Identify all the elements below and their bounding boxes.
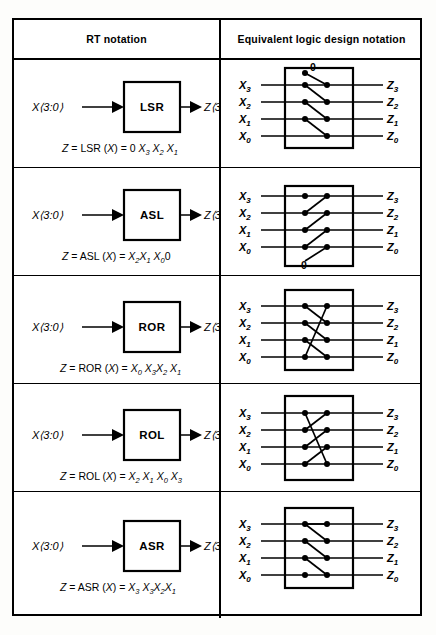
- fill-zero-label: 0: [301, 259, 307, 271]
- svg-text:Z1: Z1: [386, 224, 399, 239]
- table-header: RT notation Equivalent logic design nota…: [14, 20, 420, 60]
- header-column-divider: [219, 20, 221, 58]
- operation-label: ASR: [139, 540, 165, 552]
- svg-text:X2: X2: [238, 96, 251, 111]
- svg-text:X0: X0: [238, 130, 251, 145]
- operation-label: ROR: [139, 321, 166, 333]
- logic-box: [285, 186, 353, 266]
- output-arrow-icon: [190, 209, 202, 221]
- input-arrow-icon: [112, 209, 124, 221]
- svg-text:Z0: Z0: [386, 130, 399, 145]
- input-bus-label: X⟨3:0⟩: [31, 321, 64, 333]
- output-labels: Z3 Z2 Z1 Z0: [386, 300, 399, 366]
- svg-text:X3: X3: [238, 407, 251, 422]
- svg-text:Z3: Z3: [386, 190, 399, 205]
- svg-text:X0: X0: [238, 458, 251, 473]
- output-labels: Z3 Z2 Z1 Z0: [386, 79, 399, 145]
- rt-notation-asr: X⟨3:0⟩ ASR Z⟨3:0⟩ Z = ASR (X) = X3 X3X2X…: [14, 492, 219, 604]
- table-row: X⟨3:0⟩ ASL Z⟨3:0⟩ Z = ASL (X) = X2X1 X00: [14, 168, 420, 276]
- input-labels: X3 X2 X1 X0: [238, 300, 251, 366]
- svg-text:Z2: Z2: [386, 424, 399, 439]
- input-bus-label: X⟨3:0⟩: [31, 209, 64, 221]
- table-row: X⟨3:0⟩ LSR Z⟨3:0⟩ Z = LSR (X) = 0 X3 X2 …: [14, 60, 420, 168]
- rt-notation-asl: X⟨3:0⟩ ASL Z⟨3:0⟩ Z = ASL (X) = X2X1 X00: [14, 168, 219, 275]
- svg-text:X3: X3: [238, 190, 251, 205]
- svg-text:Z3: Z3: [386, 300, 399, 315]
- svg-text:Z3: Z3: [386, 407, 399, 422]
- svg-text:Z0: Z0: [386, 569, 399, 584]
- logic-diagram-ror: X3 X2 X1 X0 Z3 Z2 Z1 Z0: [221, 276, 422, 383]
- input-arrow-icon: [112, 540, 124, 552]
- svg-text:Z1: Z1: [386, 441, 399, 456]
- equation: Z = ASR (X) = X3 X3X2X1: [59, 581, 176, 596]
- equation: Z = ASL (X) = X2X1 X00: [61, 250, 171, 265]
- svg-text:X1: X1: [238, 552, 251, 567]
- header-logic-notation: Equivalent logic design notation: [221, 20, 422, 58]
- output-bus-label: Z⟨3:0⟩: [203, 321, 219, 333]
- logic-diagram-lsr: X3 X2 X1 X0 Z3 Z2 Z1 Z0: [221, 60, 422, 167]
- svg-text:Z1: Z1: [386, 113, 399, 128]
- output-arrow-icon: [190, 101, 202, 113]
- svg-text:Z0: Z0: [386, 458, 399, 473]
- input-bus-label: X⟨3:0⟩: [31, 101, 64, 113]
- rt-notation-rol: X⟨3:0⟩ ROL Z⟨3:0⟩ Z = ROL (X) = X2 X1 X0…: [14, 384, 219, 491]
- figure-sheet: RT notation Equivalent logic design nota…: [0, 0, 436, 635]
- output-bus-label: Z⟨3:0⟩: [203, 101, 219, 113]
- logic-diagram-rol: X3 X2 X1 X0 Z3 Z2 Z1 Z0: [221, 384, 422, 491]
- input-bus-label: X⟨3:0⟩: [31, 429, 64, 441]
- svg-text:X1: X1: [238, 224, 251, 239]
- table-row: X⟨3:0⟩ ROR Z⟨3:0⟩ Z = ROR (X) = X0 X3X2 …: [14, 276, 420, 384]
- header-rt-notation: RT notation: [14, 20, 219, 58]
- logic-diagram-asl: X3 X2 X1 X0 Z3 Z2 Z1 Z0: [221, 168, 422, 275]
- input-labels: X3 X2 X1 X0: [238, 79, 251, 145]
- output-arrow-icon: [190, 540, 202, 552]
- svg-text:X3: X3: [238, 518, 251, 533]
- svg-text:Z1: Z1: [386, 552, 399, 567]
- operation-label: ASL: [140, 209, 164, 221]
- table-row: X⟨3:0⟩ ASR Z⟨3:0⟩ Z = ASR (X) = X3 X3X2X…: [14, 492, 420, 604]
- svg-text:X3: X3: [238, 300, 251, 315]
- equation: Z = LSR (X) = 0 X3 X2 X1: [61, 142, 178, 157]
- equation: Z = ROL (X) = X2 X1 X0 X3: [59, 470, 183, 485]
- logic-diagram-asr: X3 X2 X1 X0 Z3 Z2 Z1 Z0: [221, 492, 422, 604]
- svg-text:Z1: Z1: [386, 334, 399, 349]
- svg-text:Z0: Z0: [386, 241, 399, 256]
- input-bus-label: X⟨3:0⟩: [31, 540, 64, 552]
- logic-box: [285, 508, 353, 588]
- output-bus-label: Z⟨3:0⟩: [203, 209, 219, 221]
- svg-text:Z2: Z2: [386, 317, 399, 332]
- svg-text:X2: X2: [238, 207, 251, 222]
- input-labels: X3 X2 X1 X0: [238, 518, 251, 584]
- svg-text:X1: X1: [238, 441, 251, 456]
- svg-text:X2: X2: [238, 424, 251, 439]
- logic-box: [285, 396, 353, 480]
- output-bus-label: Z⟨3:0⟩: [203, 429, 219, 441]
- output-arrow-icon: [190, 321, 202, 333]
- svg-text:X0: X0: [238, 351, 251, 366]
- input-labels: X3 X2 X1 X0: [238, 407, 251, 473]
- input-arrow-icon: [112, 101, 124, 113]
- input-labels: X3 X2 X1 X0: [238, 190, 251, 256]
- comparison-table: RT notation Equivalent logic design nota…: [12, 18, 422, 616]
- svg-text:X2: X2: [238, 535, 251, 550]
- svg-text:X3: X3: [238, 79, 251, 94]
- output-labels: Z3 Z2 Z1 Z0: [386, 407, 399, 473]
- table-row: X⟨3:0⟩ ROL Z⟨3:0⟩ Z = ROL (X) = X2 X1 X0…: [14, 384, 420, 492]
- svg-text:X1: X1: [238, 113, 251, 128]
- input-arrow-icon: [112, 429, 124, 441]
- input-arrow-icon: [112, 321, 124, 333]
- svg-text:Z2: Z2: [386, 96, 399, 111]
- operation-label: LSR: [140, 101, 164, 113]
- equation: Z = ROR (X) = X0 X3X2 X1: [59, 362, 181, 377]
- output-bus-label: Z⟨3:0⟩: [203, 540, 219, 552]
- output-arrow-icon: [190, 429, 202, 441]
- svg-text:X2: X2: [238, 317, 251, 332]
- rt-notation-lsr: X⟨3:0⟩ LSR Z⟨3:0⟩ Z = LSR (X) = 0 X3 X2 …: [14, 60, 219, 167]
- fill-zero-label: 0: [310, 61, 316, 73]
- operation-label: ROL: [139, 429, 164, 441]
- svg-text:Z3: Z3: [386, 79, 399, 94]
- logic-box: [285, 290, 353, 370]
- svg-text:X1: X1: [238, 334, 251, 349]
- rt-notation-ror: X⟨3:0⟩ ROR Z⟨3:0⟩ Z = ROR (X) = X0 X3X2 …: [14, 276, 219, 383]
- svg-text:X0: X0: [238, 241, 251, 256]
